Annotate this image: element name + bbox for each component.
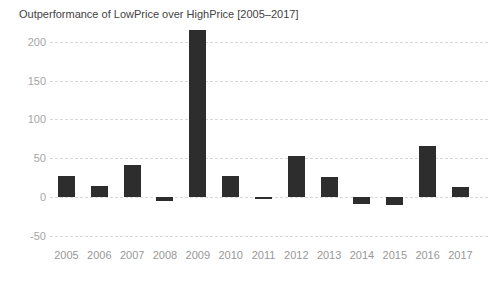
y-axis-tick-label: 0: [8, 191, 46, 203]
gridline-y-150: [50, 81, 488, 82]
bar-2015: [386, 197, 403, 205]
bar-2006: [91, 186, 108, 197]
bar-2008: [156, 197, 173, 201]
bar-2009: [189, 30, 206, 197]
y-axis-tick-label: 200: [8, 36, 46, 48]
y-axis-tick-label: -50: [8, 230, 46, 242]
y-axis-tick-label: 100: [8, 113, 46, 125]
gridline-y--50: [50, 236, 488, 237]
y-axis-tick-label: 150: [8, 75, 46, 87]
bar-2016: [419, 146, 436, 197]
bar-chart: Outperformance of LowPrice over HighPric…: [0, 0, 500, 281]
bar-2012: [288, 156, 305, 197]
gridline-y-100: [50, 119, 488, 120]
bar-2013: [321, 177, 338, 197]
bar-2007: [124, 165, 141, 197]
bar-2017: [452, 187, 469, 197]
chart-title: Outperformance of LowPrice over HighPric…: [19, 8, 298, 20]
x-axis-tick-label: 2017: [440, 249, 480, 261]
bar-2014: [353, 197, 370, 204]
bar-2010: [222, 176, 239, 197]
bar-2005: [58, 176, 75, 197]
bar-2011: [255, 197, 272, 199]
gridline-y-200: [50, 42, 488, 43]
y-axis-tick-label: 50: [8, 152, 46, 164]
